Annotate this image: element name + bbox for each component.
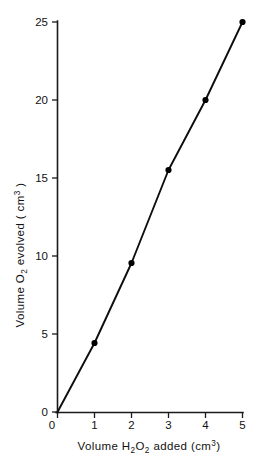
data-point-3 <box>165 167 171 173</box>
x-title-part2: O <box>135 440 144 452</box>
data-point-2 <box>128 260 134 266</box>
x-tick-label-1: 1 <box>91 419 97 431</box>
x-tick-label-4: 4 <box>202 419 209 431</box>
y-tick-label-10: 10 <box>35 250 48 262</box>
y-title-part1: Volume O <box>14 274 26 328</box>
x-title-part1: Volume H <box>77 440 130 452</box>
y-tick-label-0: 0 <box>42 406 48 418</box>
x-tick-label-2: 2 <box>128 419 134 431</box>
x-tick-label-5: 5 <box>239 419 245 431</box>
x-title-part3: added (cm <box>150 440 212 452</box>
y-tick-label-5: 5 <box>42 328 48 340</box>
y-tick-label-15: 15 <box>35 172 48 184</box>
data-point-5 <box>239 19 245 25</box>
y-tick-label-20: 20 <box>35 94 48 106</box>
data-point-4 <box>202 97 208 103</box>
y-title-part3: ) <box>14 182 26 190</box>
y-tick-label-25: 25 <box>35 16 48 28</box>
x-tick-label-3: 3 <box>165 419 171 431</box>
y-title-part2: evolved ( cm <box>14 195 26 269</box>
chart-background <box>0 0 263 467</box>
x-tick-label-0: 0 <box>49 419 55 431</box>
chart-figure: 25 20 15 10 5 0 0 1 2 3 4 5 <box>0 0 263 467</box>
x-title-part4: ) <box>216 440 220 452</box>
line-chart: 25 20 15 10 5 0 0 1 2 3 4 5 <box>0 0 263 467</box>
data-point-1 <box>91 340 97 346</box>
